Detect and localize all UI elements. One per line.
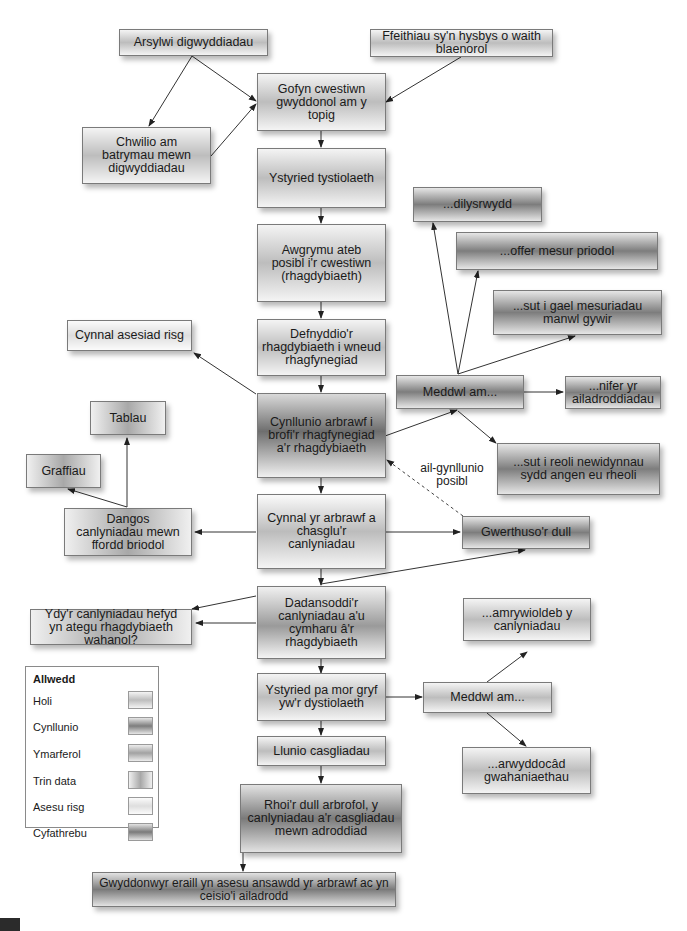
legend-label: Trin data — [33, 775, 76, 787]
node-ffeithiau: Ffeithiau sy'n hysbys o waith blaenorol — [370, 29, 553, 57]
legend: Allwedd Holi Cynllunio Ymarferol Trin da… — [25, 666, 159, 828]
node-label: Ystyried tystiolaeth — [269, 172, 374, 185]
node-label: Awgrymu ateb posibl i'r cwestiwn (rhagdy… — [266, 244, 377, 283]
node-label: Ystyried pa mor gryf yw'r dystiolaeth — [264, 684, 379, 710]
legend-label: Cynllunio — [33, 721, 78, 733]
node-label: ...amrywioldeb y canlyniadau — [470, 607, 584, 633]
node-label: Meddwl am... — [450, 691, 524, 704]
node-gofyn-cwestiwn: Gofyn cwestiwn gwyddonol am y topig — [257, 73, 386, 131]
node-dangos-canlyniadau: Dangos canlyniadau mewn ffordd briodol — [64, 508, 192, 556]
legend-label: Asesu risg — [33, 801, 84, 813]
node-ystyried-tystiolaeth: Ystyried tystiolaeth — [257, 148, 386, 208]
node-label: ...dilysrwydd — [443, 198, 512, 211]
ail-gynllunio-label: ail-gynllunio posibl — [412, 462, 492, 488]
node-label: Llunio casgliadau — [273, 745, 370, 758]
node-ydyr-canlyniadau: Ydy'r canlyniadau hefyd yn ategu rhagdyb… — [30, 609, 192, 645]
legend-label: Cyfathrebu — [33, 827, 87, 839]
node-label: ...nifer yr ailadroddiadau — [572, 380, 654, 406]
node-sut-i-reoli: ...sut i reoli newidynnau sydd angen eu … — [497, 443, 660, 495]
legend-item-asesu-risg: Asesu risg — [33, 797, 155, 817]
node-gwerthuso-dull: Gwerthuso'r dull — [462, 516, 590, 549]
node-cynnal-arbrawf: Cynnal yr arbrawf a chasglu'r canlyniada… — [257, 494, 386, 569]
node-label: Rhoi'r dull arbrofol, y canlyniadau a'r … — [247, 799, 395, 838]
node-ystyried-pa-mor-gryf: Ystyried pa mor gryf yw'r dystiolaeth — [257, 673, 386, 721]
node-label: Cynnal yr arbrawf a chasglu'r canlyniada… — [264, 512, 379, 551]
node-label: Dangos canlyniadau mewn ffordd briodol — [73, 513, 183, 552]
node-label: Graffiau — [41, 465, 85, 478]
node-label: Meddwl am... — [423, 386, 497, 399]
legend-item-holi: Holi — [33, 691, 155, 711]
node-chwilio-am-batrymau: Chwilio am batrymau mewn digwyddiadau — [82, 127, 211, 184]
node-tablau: Tablau — [90, 401, 166, 435]
legend-swatch-holi — [128, 691, 153, 709]
legend-swatch-cynllunio — [128, 717, 153, 735]
node-defnyddio-rhagdybiaeth: Defnyddio'r rhagdybiaeth i wneud rhagfyn… — [257, 319, 386, 376]
node-label: Cynnal asesiad risg — [75, 329, 184, 342]
legend-swatch-asesu-risg — [128, 797, 153, 815]
node-nifer-ailadroddiadau: ...nifer yr ailadroddiadau — [565, 376, 661, 409]
legend-swatch-cyfathrebu — [128, 823, 153, 841]
node-cynllunio-arbrawf: Cynllunio arbrawf i brofi'r rhagfynegiad… — [257, 393, 386, 478]
node-meddwl-am-2: Meddwl am... — [423, 682, 552, 713]
legend-swatch-trin-data — [128, 771, 153, 789]
legend-label: Holi — [33, 695, 52, 707]
node-awgrymu-ateb: Awgrymu ateb posibl i'r cwestiwn (rhagdy… — [257, 224, 386, 302]
node-label: ...sut i reoli newidynnau sydd angen eu … — [506, 456, 651, 482]
node-label: Ydy'r canlyniadau hefyd yn ategu rhagdyb… — [37, 608, 185, 647]
node-sut-i-gael: ...sut i gael mesuriadau manwl gywir — [493, 290, 662, 335]
node-label: Gwerthuso'r dull — [481, 526, 571, 539]
node-label: Dadansoddi'r canlyniadau a'u cymharu â'r… — [264, 597, 379, 649]
node-label: Gofyn cwestiwn gwyddonol am y topig — [262, 83, 381, 122]
node-arwyddocad: ...arwyddocâd gwahaniaethau — [462, 747, 591, 794]
node-label: Defnyddio'r rhagdybiaeth i wneud rhagfyn… — [262, 328, 381, 367]
page-corner-mark — [0, 918, 20, 931]
node-offer-mesur: ...offer mesur priodol — [456, 232, 658, 270]
node-label: ...arwyddocâd gwahaniaethau — [471, 758, 582, 784]
node-gwyddonwyr-eraill: Gwyddonwyr eraill yn asesu ansawdd yr ar… — [92, 872, 396, 907]
node-meddwl-am-1: Meddwl am... — [396, 375, 524, 409]
legend-title: Allwedd — [33, 673, 75, 685]
node-label: ...offer mesur priodol — [500, 245, 614, 258]
node-label: Tablau — [110, 412, 147, 425]
legend-item-cynllunio: Cynllunio — [33, 717, 155, 737]
node-arsylwi-digwyddiadau: Arsylwi digwyddiadau — [119, 29, 268, 56]
node-dilysrwydd: ...dilysrwydd — [413, 187, 542, 222]
legend-swatch-ymarferol — [128, 744, 153, 762]
node-graffiau: Graffiau — [26, 454, 101, 488]
node-label: Chwilio am batrymau mewn digwyddiadau — [95, 136, 198, 175]
legend-label: Ymarferol — [33, 748, 81, 760]
legend-item-ymarferol: Ymarferol — [33, 744, 155, 764]
node-cynnal-asesiad-risg: Cynnal asesiad risg — [67, 320, 192, 351]
node-label: Cynllunio arbrawf i brofi'r rhagfynegiad… — [262, 416, 381, 455]
node-label: ...sut i gael mesuriadau manwl gywir — [500, 300, 655, 326]
legend-item-trin-data: Trin data — [33, 771, 155, 791]
node-label: Ffeithiau sy'n hysbys o waith blaenorol — [377, 30, 546, 56]
node-dadansoddi: Dadansoddi'r canlyniadau a'u cymharu â'r… — [257, 586, 386, 659]
node-rhoir-dull-adroddiad: Rhoi'r dull arbrofol, y canlyniadau a'r … — [240, 784, 402, 853]
node-label: Gwyddonwyr eraill yn asesu ansawdd yr ar… — [97, 877, 391, 903]
legend-item-cyfathrebu: Cyfathrebu — [33, 823, 155, 843]
node-label: Arsylwi digwyddiadau — [134, 36, 254, 49]
node-llunio-casgliadau: Llunio casgliadau — [257, 736, 386, 766]
node-amrywioldeb: ...amrywioldeb y canlyniadau — [463, 598, 591, 641]
